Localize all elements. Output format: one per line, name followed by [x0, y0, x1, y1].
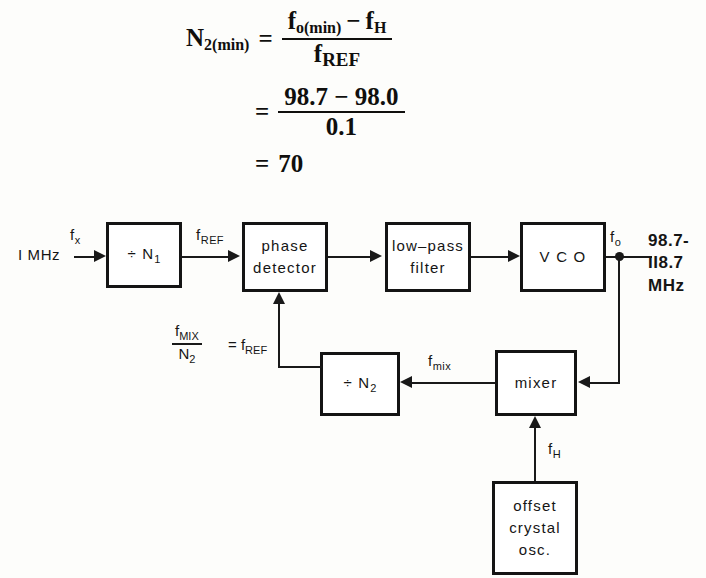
arrowhead-into-phase-detector — [273, 292, 285, 304]
feedback-fraction-numerator: fMIX — [172, 322, 202, 343]
block-divider-n1: ÷ N1 — [106, 222, 182, 288]
vco-label: V C O — [540, 246, 587, 268]
block-low-pass-filter: low–pass filter — [385, 222, 471, 292]
fmix-label: fmix — [428, 352, 451, 372]
divider-n1-label: ÷ N1 — [128, 243, 161, 268]
output-frequency-line3: MHz — [648, 276, 684, 295]
wire-vco-down-to-mixer — [618, 256, 620, 384]
arrowhead-phase-detector-to-filter — [370, 250, 382, 262]
figure-page: N2(min) = fo(min)−fH fREF = 98.7 − 98.0 … — [0, 0, 706, 578]
arrowhead-input-to-n1 — [94, 250, 106, 262]
output-frequency-line1: 98.7- — [648, 231, 689, 250]
wire-osc-to-mixer — [534, 428, 536, 482]
low-pass-filter-label-line2: filter — [410, 257, 446, 279]
block-divider-n2: ÷ N2 — [320, 352, 400, 416]
block-phase-detector: phase detector — [242, 222, 328, 292]
wire-phase-detector-to-filter — [328, 256, 372, 258]
arrowhead-n1-to-phase-detector — [228, 250, 240, 262]
block-mixer: mixer — [495, 350, 577, 416]
wire-n2-to-phase-detector-h — [278, 366, 322, 368]
fref-label: fREF — [196, 226, 224, 246]
feedback-fraction-denominator: N2 — [175, 345, 198, 366]
arrowhead-filter-to-vco — [508, 250, 520, 262]
fx-label: fx — [70, 226, 81, 246]
input-source-label: I MHz — [18, 246, 60, 263]
arrowhead-mixer-to-n2 — [400, 376, 412, 388]
low-pass-filter-label-line1: low–pass — [392, 235, 464, 257]
wire-vco-output — [606, 256, 652, 258]
offset-crystal-osc-label-line3: osc. — [519, 539, 551, 561]
feedback-equals-label: = fREF — [228, 336, 267, 356]
wire-mixer-to-n2 — [412, 382, 495, 384]
offset-crystal-osc-label-line1: offset — [513, 495, 557, 517]
block-offset-crystal-osc: offset crystal osc. — [492, 481, 578, 575]
wire-n1-to-phase-detector — [182, 256, 230, 258]
block-diagram: I MHz fx ÷ N1 fREF phase detector low–pa… — [0, 0, 706, 578]
block-vco: V C O — [520, 222, 606, 292]
fo-label: fo — [610, 228, 621, 248]
wire-n2-to-phase-detector-v — [278, 304, 280, 368]
phase-detector-label-line2: detector — [253, 257, 317, 279]
divider-n2-label: ÷ N2 — [344, 372, 377, 397]
feedback-fraction-label: fMIX N2 — [172, 322, 202, 365]
phase-detector-label-line1: phase — [262, 235, 309, 257]
offset-crystal-osc-label-line2: crystal — [509, 517, 561, 539]
wire-into-mixer-right — [590, 382, 620, 384]
arrowhead-into-mixer-bottom — [529, 416, 541, 428]
fh-label: fH — [548, 440, 561, 460]
arrowhead-into-mixer-right — [578, 376, 590, 388]
output-frequency-label: 98.7- II8.7 MHz — [648, 230, 689, 297]
mixer-label: mixer — [515, 372, 558, 394]
output-frequency-line2: II8.7 — [648, 253, 684, 272]
